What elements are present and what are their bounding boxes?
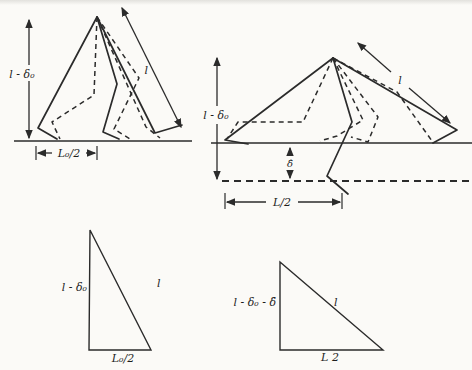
left-leg-solid-midstance — [97, 17, 119, 139]
left-base-dimension: L₀/2 — [36, 146, 97, 160]
right-stride-diagram: l - δ₀ l δ̂ L/2 — [203, 43, 472, 209]
right-triangle-outline — [280, 262, 383, 350]
left-geometry-triangle: l - δ₀ l L₀/2 — [62, 230, 161, 365]
left-height-dimension-arrow: l - δ₀ — [9, 20, 35, 138]
left-leg-length-label: l — [144, 64, 148, 77]
left-leg-solid-touchdown — [38, 17, 97, 139]
squat-depth-label: δ̂ — [287, 158, 293, 169]
right-leg-solid-takeoff — [333, 58, 457, 143]
left-triangle-hypotenuse-label: l — [157, 277, 161, 290]
right-triangle-vertical-side-label: l - δ₀ - δ̂ — [233, 296, 276, 309]
right-base-dimension-label: L/2 — [272, 196, 291, 209]
stride-geometry-figure: l - δ₀ l L₀/2 l - δ₀ — [0, 0, 472, 370]
right-height-label: l - δ₀ — [203, 109, 229, 122]
left-leg-dashed-1 — [52, 17, 97, 139]
leg-length-arrow-line — [122, 8, 181, 127]
left-stride-diagram: l - δ₀ l L₀/2 — [9, 8, 192, 160]
left-triangle-outline — [89, 230, 151, 350]
right-triangle-hypotenuse-label: l — [334, 296, 338, 309]
right-geometry-triangle: l - δ₀ - δ̂ l L 2 — [233, 262, 383, 364]
left-triangle-base-label: L₀/2 — [111, 352, 134, 365]
scanned-figure-page: l - δ₀ l L₀/2 l - δ₀ — [0, 0, 472, 370]
left-triangle-vertical-side-label: l - δ₀ — [62, 281, 88, 294]
right-leg-dashed-2 — [333, 58, 432, 141]
right-leg-dashed-3 — [320, 58, 363, 141]
left-leg-length-arrow: l — [122, 8, 181, 127]
squat-depth-arrow: δ̂ — [287, 148, 293, 178]
left-base-dimension-label: L₀/2 — [57, 147, 80, 160]
right-triangle-base-label: L 2 — [320, 351, 339, 364]
right-height-dimension-arrow: l - δ₀ — [203, 58, 229, 179]
right-leg-length-label: l — [398, 74, 402, 87]
leg-length-arrow-upper-segment — [358, 43, 391, 72]
right-base-dimension: L/2 — [225, 193, 342, 209]
left-height-label: l - δ₀ — [9, 68, 35, 81]
right-leg-solid-stance-below-ground — [327, 58, 352, 194]
right-leg-solid-touchdown — [225, 58, 333, 144]
right-leg-length-arrow: l — [358, 43, 450, 123]
